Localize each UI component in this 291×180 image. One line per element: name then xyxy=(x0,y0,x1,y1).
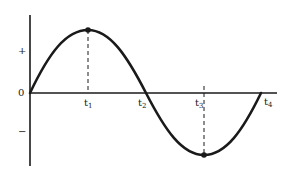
y-label-zero: 0 xyxy=(18,88,24,98)
maximum-point-marker xyxy=(85,27,91,33)
sine-wave-chart xyxy=(0,0,291,180)
x-label-t3: t3 xyxy=(195,98,204,110)
x-label-t2: t2 xyxy=(138,98,147,110)
y-label-plus: + xyxy=(18,46,26,56)
x-label-t1: t1 xyxy=(84,98,93,110)
minimum-point-marker xyxy=(201,152,207,158)
y-label-minus: − xyxy=(18,127,26,137)
x-label-t4: t4 xyxy=(264,97,273,109)
